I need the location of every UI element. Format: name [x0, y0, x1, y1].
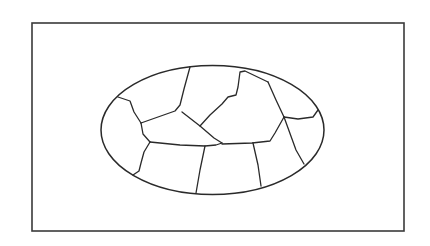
region-boundary-line [150, 142, 222, 146]
region-boundary-line [200, 71, 268, 126]
region-boundary-line [182, 112, 222, 143]
region-boundary-line [284, 117, 304, 164]
region-boundaries [118, 67, 318, 193]
outer-frame [32, 23, 404, 231]
region-boundary-line [222, 117, 284, 144]
region-boundary-line [284, 110, 318, 119]
region-boundary-line [253, 143, 261, 186]
region-boundary-line [118, 97, 141, 123]
region-boundary-line [268, 82, 284, 117]
region-boundary-line [141, 67, 190, 123]
ellipse-outline [101, 66, 324, 195]
region-boundary-line [141, 123, 150, 142]
region-boundary-line [196, 146, 205, 193]
region-boundary-line [133, 142, 150, 175]
region-diagram [0, 0, 430, 246]
